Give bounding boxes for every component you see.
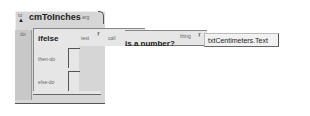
then-do-label: then-do [38,56,55,62]
arg-label: arg [82,14,89,20]
thing-label: thing [180,33,191,39]
test-socket-icon[interactable]: ⸢ [97,32,101,41]
else-do-notch [68,71,80,72]
call-label: call [108,35,116,41]
thing-socket-icon[interactable]: ⸢ [198,33,202,42]
test-label: test [81,35,89,41]
procedure-name[interactable]: cmToInches [29,12,81,22]
arg-socket[interactable] [98,11,104,24]
else-do-label: else-do [38,79,54,85]
function-name: is a number? [125,39,175,48]
procedure-bottom [15,100,105,104]
value-text: txtCentimeters.Text [208,37,268,44]
collapse-arrow-icon[interactable]: ▲ [18,17,24,23]
procedure-do-strip [15,30,32,102]
do-label: do [20,31,26,37]
then-do-socket[interactable] [68,48,69,68]
else-do-socket[interactable] [68,71,69,91]
then-do-notch [68,48,80,49]
ifelse-bottom [33,91,101,95]
ifelse-label: ifelse [38,34,58,43]
